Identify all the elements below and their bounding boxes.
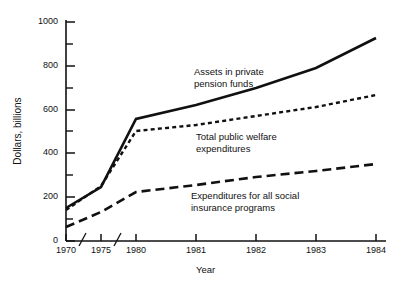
y-tick-label-0: 0	[28, 236, 58, 245]
x-axis-ticks	[66, 234, 376, 241]
annotation-pension-assets-line2: pension funds	[194, 78, 264, 90]
x-tick-label-1982: 1982	[242, 246, 270, 255]
x-tick-label-1980: 1980	[122, 246, 150, 255]
series-line-pension-assets	[66, 38, 376, 208]
x-tick-label-1983: 1983	[302, 246, 330, 255]
y-tick-label-600: 600	[28, 105, 58, 114]
x-tick-label-1984: 1984	[362, 246, 390, 255]
x-tick-label-1970: 1970	[52, 246, 80, 255]
annotation-pension-assets: Assets in private pension funds	[194, 66, 264, 89]
annotation-public-welfare: Total public welfare expenditures	[196, 131, 277, 154]
annotation-public-welfare-line1: Total public welfare	[196, 131, 277, 143]
annotation-social-insurance-line2: insurance programs	[191, 202, 299, 214]
x-tick-label-1975: 1975	[87, 246, 115, 255]
annotation-social-insurance-line1: Expenditures for all social	[191, 190, 299, 202]
y-axis-title-text: Dollars, billions	[12, 97, 23, 164]
annotation-social-insurance: Expenditures for all social insurance pr…	[191, 190, 299, 213]
y-tick-label-800: 800	[28, 61, 58, 70]
y-tick-label-400: 400	[28, 148, 58, 157]
annotation-public-welfare-line2: expenditures	[196, 143, 277, 155]
x-tick-label-1981: 1981	[182, 246, 210, 255]
y-axis-title: Dollars, billions	[8, 56, 26, 206]
y-tick-label-1000: 1000	[28, 17, 58, 26]
y-tick-label-200: 200	[28, 192, 58, 201]
annotation-pension-assets-line1: Assets in private	[194, 66, 264, 78]
x-axis-title: Year	[196, 264, 215, 275]
y-axis-minor-ticks	[66, 44, 73, 219]
chart-figure: 1000 800 600 400 200 0 1970 1975 1980 19…	[0, 0, 399, 296]
